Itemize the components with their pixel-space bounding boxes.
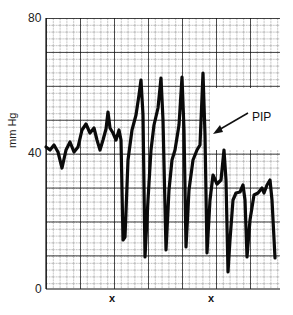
x-marker-2: x <box>208 292 214 304</box>
chart-canvas <box>0 0 293 315</box>
y-tick-0: 0 <box>35 282 42 296</box>
x-marker-1: x <box>109 292 115 304</box>
y-tick-40: 40 <box>28 146 41 160</box>
y-tick-80: 80 <box>28 11 41 25</box>
y-axis-label: mm Hg <box>6 113 18 148</box>
pip-annotation: PIP <box>252 110 271 124</box>
